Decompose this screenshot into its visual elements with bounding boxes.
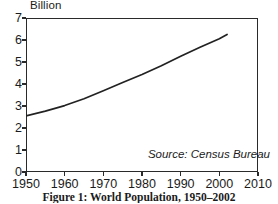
y-tick-label: 2 — [0, 122, 22, 135]
y-tick-label: 7 — [0, 12, 22, 25]
y-axis-unit-label: Billion — [30, 0, 61, 11]
x-tick-mark — [141, 172, 143, 176]
x-tick-mark — [25, 172, 27, 176]
x-tick-mark — [64, 172, 66, 176]
x-tick-label: 1980 — [120, 178, 164, 191]
x-tick-label: 1960 — [43, 178, 87, 191]
x-tick-mark — [180, 172, 182, 176]
x-tick-label: 1990 — [159, 178, 203, 191]
x-tick-label: 2010 — [236, 178, 278, 191]
y-tick-mark — [22, 17, 26, 19]
y-tick-mark — [22, 149, 26, 151]
y-tick-mark — [22, 83, 26, 85]
y-tick-label: 1 — [0, 144, 22, 157]
x-tick-label: 1950 — [4, 178, 48, 191]
y-tick-label: 6 — [0, 34, 22, 47]
figure-world-population: Billion 01234567 19501960197019801990200… — [0, 0, 278, 204]
y-tick-mark — [22, 61, 26, 63]
population-line-series — [26, 35, 227, 116]
y-tick-mark — [22, 127, 26, 129]
y-tick-label: 5 — [0, 56, 22, 69]
x-tick-mark — [219, 172, 221, 176]
y-tick-label: 4 — [0, 78, 22, 91]
source-annotation: Source: Census Bureau — [148, 148, 270, 160]
x-tick-label: 2000 — [197, 178, 241, 191]
x-tick-mark — [103, 172, 105, 176]
figure-caption: Figure 1: World Population, 1950–2002 — [0, 191, 278, 203]
y-tick-mark — [22, 39, 26, 41]
y-tick-mark — [22, 105, 26, 107]
y-tick-label: 3 — [0, 100, 22, 113]
x-tick-label: 1970 — [81, 178, 125, 191]
x-tick-mark — [257, 172, 259, 176]
